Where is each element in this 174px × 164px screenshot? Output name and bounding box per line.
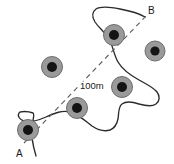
marker-6	[145, 41, 165, 61]
marker-core-icon	[150, 46, 159, 55]
marker-core-icon	[72, 103, 82, 113]
marker-4	[112, 77, 133, 98]
survey-diagram-figure: 100m 100m A B	[0, 0, 174, 164]
marker-3	[42, 57, 63, 78]
marker-core-icon	[47, 62, 57, 72]
diagram-canvas: 100m 100m A B	[0, 0, 174, 164]
point-a-label: A	[16, 148, 23, 159]
scale-label: 100m	[80, 80, 104, 91]
marker-core-icon	[109, 30, 119, 40]
point-b-label: B	[148, 5, 155, 16]
marker-5	[104, 25, 125, 46]
marker-core-icon	[23, 125, 33, 135]
marker-core-icon	[117, 82, 127, 92]
marker-1	[18, 120, 39, 141]
marker-2	[67, 98, 88, 119]
